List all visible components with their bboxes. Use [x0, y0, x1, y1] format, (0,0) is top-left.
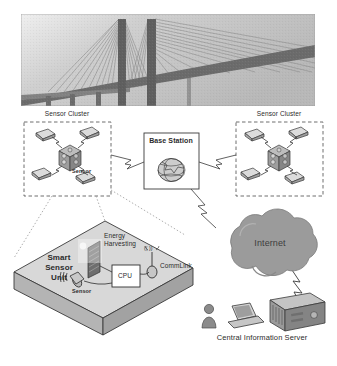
cluster-hub-icon-right — [268, 145, 290, 171]
diagram-vector-layer — [0, 0, 337, 366]
central-information-server-graphics — [202, 293, 325, 331]
sensor-node-right-tl — [245, 129, 264, 141]
smart-sensor-unit-label: Smart Sensor Unit — [45, 253, 73, 283]
sensor-cluster-right-graphics — [241, 127, 308, 184]
sensor-node-left-tl — [36, 129, 55, 141]
laptop-icon — [228, 303, 264, 328]
sensor-node-right-tr — [289, 127, 308, 139]
internet-label: Internet — [254, 238, 285, 248]
globe-icon — [158, 159, 185, 182]
unit-sensor-label: Sensor — [72, 288, 91, 294]
sensor-cluster-label-left: Sensor Cluster — [45, 110, 89, 117]
link-base-station-internet — [191, 189, 216, 228]
sensor-node-right-bl — [241, 168, 260, 180]
energy-harvesting-line-1: Energy — [104, 232, 136, 240]
sensor-node-left-bl — [32, 168, 51, 180]
figure-canvas: Sensor Cluster Sensor Cluster Sensor Bas… — [0, 0, 337, 366]
energy-harvesting-label: Energy Harvesting — [104, 232, 136, 248]
comm-link-signal-glyph: (( )) — [144, 246, 153, 252]
sensor-node-left-tr — [80, 127, 99, 139]
ssu-label-line-2: Sensor — [45, 263, 73, 273]
server-icon — [270, 293, 325, 331]
ssu-label-line-1: Smart — [45, 253, 73, 263]
energy-harvesting-line-2: Harvesting — [104, 240, 136, 248]
ssu-label-line-3: Unit — [45, 273, 73, 283]
base-station-label: Base Station — [149, 137, 193, 145]
comm-link-label: CommLink — [160, 262, 192, 269]
user-icon — [202, 304, 216, 328]
cpu-label: CPU — [118, 272, 132, 279]
link-right-cluster-base-station — [199, 155, 236, 169]
sensor-node-label-left: Sensor — [72, 168, 91, 174]
central-information-server-label: Central Information Server — [217, 334, 308, 343]
sensor-cluster-left-graphics — [32, 127, 99, 184]
link-left-cluster-base-station — [111, 155, 144, 169]
sensor-cluster-label-right: Sensor Cluster — [257, 110, 301, 117]
cable-stayed-bridge-photo — [21, 14, 315, 106]
